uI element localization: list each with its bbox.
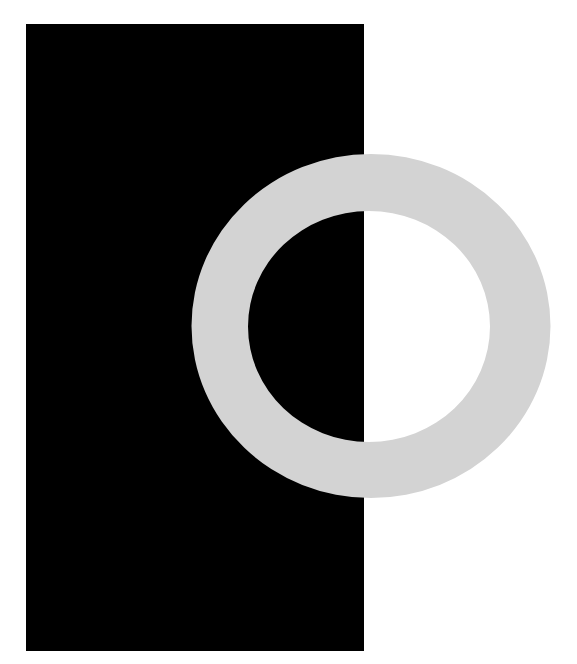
abstract-graphic [0,0,577,664]
artwork-canvas [0,0,577,664]
